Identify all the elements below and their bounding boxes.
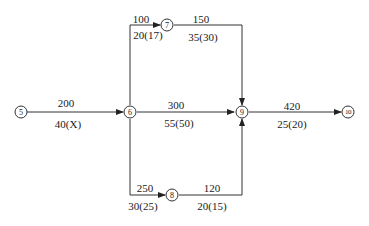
edge-6-9-duration: 55(50)	[164, 117, 193, 129]
edge-5-6-cost: 200	[58, 97, 75, 109]
edge-6-7-cost: 100	[133, 13, 150, 25]
edge-7-9-cost: 150	[193, 13, 210, 25]
node-5: 5	[15, 106, 28, 119]
network-edges	[0, 0, 369, 226]
edge-9-10-cost: 420	[284, 100, 301, 112]
edge-8-9-duration: 20(15)	[197, 200, 226, 212]
node-6: 6	[124, 106, 137, 119]
node-10: 10	[342, 106, 355, 119]
edge-8-9-cost: 120	[204, 182, 221, 194]
edge-9-10-duration: 25(20)	[277, 118, 306, 130]
edge-5-6-duration: 40(X)	[55, 118, 81, 130]
node-9: 9	[236, 106, 249, 119]
edge-6-8-cost: 250	[137, 182, 154, 194]
edge-7-9-duration: 35(30)	[188, 31, 217, 43]
edge-6-8-duration: 30(25)	[128, 200, 157, 212]
edge-6-9-cost: 300	[168, 99, 185, 111]
edge-6-7-duration: 20(17)	[133, 29, 162, 41]
node-8: 8	[166, 189, 179, 202]
